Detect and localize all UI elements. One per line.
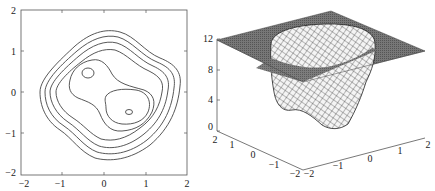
xtick-label: 2 bbox=[185, 178, 190, 189]
surface-plot: 12 8 4 0 2 1 0 −1 −2 −2 −1 0 1 2 bbox=[203, 11, 431, 179]
ytick-label: −2 bbox=[5, 167, 16, 178]
ytick-label: 2 bbox=[213, 134, 218, 145]
xtick-label: 0 bbox=[102, 178, 107, 189]
ytick-label: 0 bbox=[11, 87, 16, 98]
xtick-label: 1 bbox=[144, 178, 149, 189]
ytick-label: −1 bbox=[5, 128, 16, 139]
contour-lines bbox=[40, 31, 180, 160]
ztick-label: 12 bbox=[203, 33, 213, 44]
ytick-label: 1 bbox=[230, 139, 235, 150]
ytick-label: −1 bbox=[269, 159, 280, 170]
ztick-label: 8 bbox=[208, 64, 213, 75]
xtick-label: 1 bbox=[398, 145, 403, 156]
ytick-label: 0 bbox=[251, 149, 256, 160]
xtick-label: −1 bbox=[55, 178, 66, 189]
xtick-label: −2 bbox=[304, 168, 315, 179]
figure: 2 1 0 −1 −2 −2 −1 0 1 2 12 8 4 0 bbox=[0, 0, 435, 191]
ztick-label: 4 bbox=[208, 94, 213, 105]
xtick-label: −2 bbox=[19, 178, 30, 189]
ztick-label: 0 bbox=[208, 121, 213, 132]
ytick-label: 1 bbox=[11, 46, 16, 57]
x-axis bbox=[303, 138, 425, 170]
xtick-label: −1 bbox=[333, 160, 344, 171]
ytick-label: 2 bbox=[11, 5, 16, 16]
y-axis bbox=[217, 131, 303, 170]
ytick-label: −2 bbox=[290, 168, 301, 179]
xtick-label: 2 bbox=[426, 139, 431, 150]
contour-plot: 2 1 0 −1 −2 −2 −1 0 1 2 bbox=[5, 5, 189, 189]
xtick-label: 0 bbox=[368, 153, 373, 164]
